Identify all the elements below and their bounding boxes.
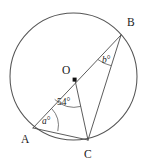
segment-O-C — [75, 80, 88, 140]
circle-outline — [10, 13, 137, 140]
center-point-dot — [73, 78, 77, 82]
angle-label-54: 54° — [57, 97, 71, 107]
angle-label-b-unit: ° — [107, 55, 111, 65]
angle-label-54-value: 54 — [57, 97, 67, 107]
segment-A-B — [33, 35, 121, 128]
angle-label-54-unit: ° — [67, 97, 71, 107]
circle-geometry-diagram: A B C O a° b° 54° — [0, 0, 148, 167]
angle-label-a-unit: ° — [47, 116, 51, 126]
point-label-A: A — [21, 133, 30, 145]
point-label-B: B — [127, 16, 135, 28]
geometry-figure: A B C O a° b° 54° — [0, 0, 148, 167]
angle-arc-at-A — [52, 108, 59, 131]
angle-label-a: a° — [42, 116, 51, 126]
point-label-O: O — [62, 64, 70, 76]
point-label-C: C — [84, 148, 92, 160]
angle-label-b: b° — [102, 55, 111, 65]
